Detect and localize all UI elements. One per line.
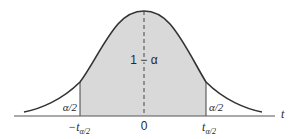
right-tail-label: α/2 — [209, 101, 224, 113]
t-distribution-diagram: 1 − α α/2 α/2 t −tα/2 0 tα/2 — [0, 0, 294, 139]
tick-zero: 0 — [141, 119, 148, 133]
tick-left-critical: −tα/2 — [68, 120, 90, 136]
tick-right-critical: tα/2 — [202, 120, 216, 136]
center-area-label: 1 − α — [130, 53, 157, 67]
axis-variable-label: t — [281, 107, 285, 121]
left-tail-label: α/2 — [63, 101, 78, 113]
